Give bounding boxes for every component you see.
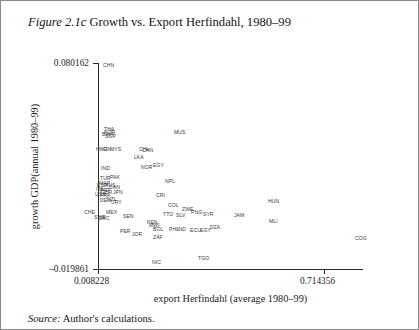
figure-page: Figure 2.1c Growth vs. Export Herfindahl…: [0, 0, 419, 330]
point-label-chn-b: CHN: [142, 148, 153, 153]
point-label-jpn: JPN: [113, 190, 123, 195]
point-label-tgo: TGO: [198, 256, 209, 261]
y-tick-top: [93, 63, 98, 64]
y-tick-label-top: 0.080162: [23, 58, 89, 68]
source-text: Author's calculations.: [63, 313, 155, 324]
point-label-deu: DEU: [100, 198, 111, 203]
point-label-pak: PAK: [110, 175, 120, 180]
y-axis-line: [98, 63, 99, 270]
point-label-png: PNG: [191, 210, 202, 215]
point-label-ind-b: IND: [177, 227, 186, 232]
point-label-grc: GRC: [98, 216, 109, 221]
point-label-slv: SLV: [176, 213, 185, 218]
point-label-hun: HUN: [268, 199, 279, 204]
point-label-jor: JOR: [132, 232, 142, 237]
point-label-sgp: SGP: [105, 134, 116, 139]
scatter-plot: 0.080162 –0.019861 0.008228 0.714356 gro…: [1, 1, 419, 330]
point-label-lka: LKA: [134, 155, 144, 160]
point-label-nic: NIC: [152, 260, 161, 265]
point-label-dza: DZA: [210, 225, 220, 230]
y-axis-title: growth GDP(annual 1980–99): [29, 82, 40, 252]
point-label-mys: MYS: [110, 147, 121, 152]
point-label-cri: CRI: [156, 193, 165, 198]
x-axis-title: export Herfindahl (average 1980–99): [98, 293, 363, 304]
point-label-col: COL: [168, 203, 179, 208]
source-label: Source:: [28, 313, 61, 324]
point-label-bol: BOL: [153, 227, 163, 232]
point-label-egy: EGY: [153, 163, 164, 168]
point-label-mus: MUS: [174, 130, 185, 135]
point-label-ury: URY: [111, 200, 122, 205]
point-label-syr: SYR: [203, 212, 214, 217]
y-tick-label-bottom: –0.019861: [19, 264, 89, 274]
point-label-ind: IND: [101, 166, 110, 171]
point-label-cog: COG: [355, 236, 367, 241]
point-label-sen: SEN: [123, 214, 134, 219]
x-tick-left: [98, 269, 99, 274]
point-label-tto: TTO: [163, 212, 173, 217]
point-label-mli: MLI: [269, 219, 278, 224]
point-label-nor: NOR: [141, 165, 152, 170]
source-note: Source: Author's calculations.: [28, 313, 155, 324]
x-tick-right: [324, 269, 325, 274]
x-tick-label-left: 0.008228: [74, 276, 109, 286]
point-label-jam: JAM: [234, 213, 244, 218]
x-tick-label-right: 0.714356: [300, 276, 335, 286]
point-label-zaf: ZAF: [153, 235, 163, 240]
point-label-per: PER: [120, 229, 131, 234]
point-label-npl: NPL: [165, 179, 175, 184]
point-label-chn: CHN: [103, 63, 114, 68]
